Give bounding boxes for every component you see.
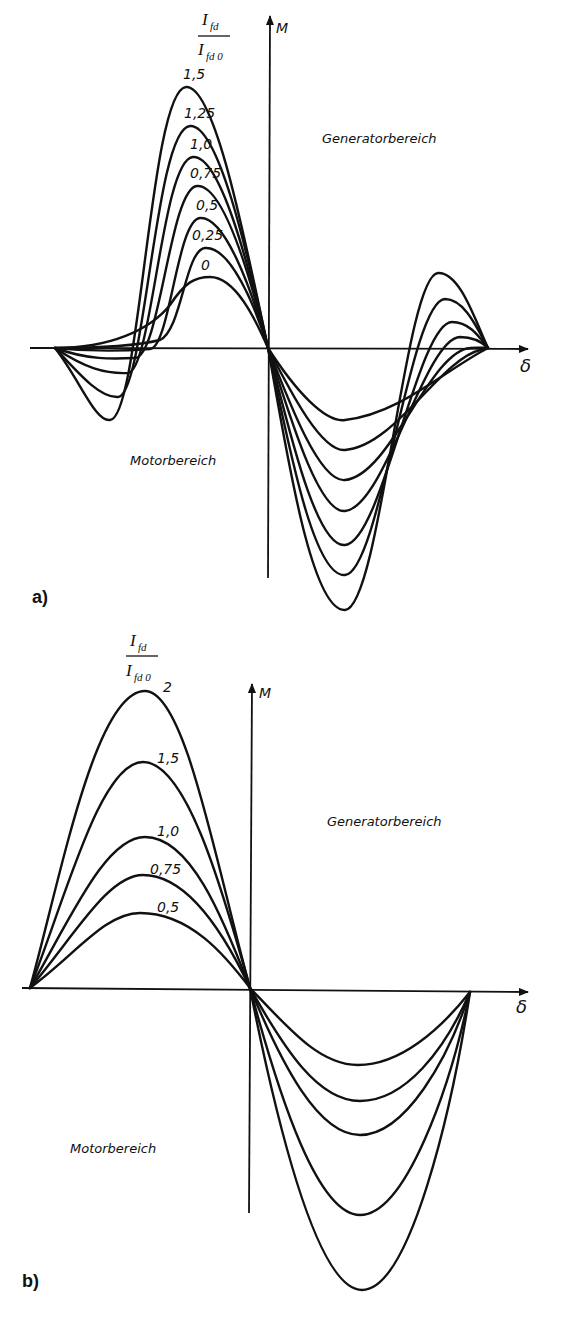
y-axis-label-b: M <box>259 685 271 701</box>
y-axis-label-a: M <box>276 20 288 36</box>
motor-region-label-b: Motorbereich <box>70 1141 156 1156</box>
curve-label-b-0.5: 0,5 <box>157 899 179 915</box>
svg-text:fd: fd <box>138 641 147 653</box>
legend-title-b: I fd I fd 0 <box>125 631 158 683</box>
generator-region-label-a: Generatorbereich <box>322 131 437 146</box>
svg-text:I: I <box>125 661 133 680</box>
svg-text:I: I <box>201 10 209 29</box>
curve-label-a-0.5: 0,5 <box>196 197 218 213</box>
curve-label-a-0: 0 <box>201 257 210 273</box>
panel-tag-a: a) <box>32 587 48 607</box>
y-axis-b <box>249 684 252 1213</box>
curve-label-b-1.5: 1,5 <box>157 750 179 766</box>
y-axis-a <box>268 16 270 578</box>
figure-canvas: M δ I fd I fd 0 1,5 1,25 1,0 0,75 0,5 0,… <box>0 0 563 1317</box>
curve-label-b-0.75: 0,75 <box>150 861 181 877</box>
curve-b-pos-0.5 <box>30 913 250 988</box>
curve-b-neg-2 <box>250 988 470 1290</box>
generator-region-label-b: Generatorbereich <box>327 814 442 829</box>
panel-tag-b: b) <box>22 1271 39 1291</box>
curve-label-b-1.0: 1,0 <box>157 823 179 839</box>
curve-b-pos-2 <box>30 691 250 988</box>
curve-label-a-0.25: 0,25 <box>192 227 223 243</box>
curve-b-neg-0.5 <box>250 988 470 1065</box>
panel-a: M δ I fd I fd 0 1,5 1,25 1,0 0,75 0,5 0,… <box>30 10 531 610</box>
curve-b-pos-0.75 <box>30 875 250 988</box>
x-axis-a <box>30 348 528 349</box>
curve-label-a-1.5: 1,5 <box>183 66 205 82</box>
legend-title-a: I fd I fd 0 <box>197 10 230 62</box>
motor-region-label-a: Motorbereich <box>130 453 216 468</box>
x-axis-label-a: δ <box>520 355 531 376</box>
svg-text:fd 0: fd 0 <box>134 671 151 683</box>
x-axis-label-b: δ <box>516 996 527 1017</box>
curve-label-a-1.25: 1,25 <box>184 105 215 121</box>
x-axis-b <box>22 988 528 992</box>
curve-label-a-1.0: 1,0 <box>190 136 212 152</box>
curve-b-neg-0.75 <box>250 988 470 1101</box>
curve-label-a-0.75: 0,75 <box>190 165 221 181</box>
svg-text:fd 0: fd 0 <box>206 50 223 62</box>
svg-text:I: I <box>129 631 137 650</box>
panel-b: M δ I fd I fd 0 2 1,5 1,0 0,75 0,5 Gener… <box>22 631 528 1291</box>
svg-text:fd: fd <box>210 20 219 32</box>
svg-text:I: I <box>197 40 205 59</box>
curve-b-neg-1.0 <box>250 988 470 1135</box>
curve-label-b-2: 2 <box>163 679 172 695</box>
